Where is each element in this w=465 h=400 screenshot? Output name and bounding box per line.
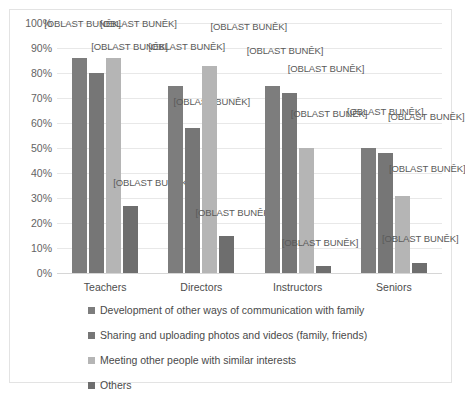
bar[interactable] bbox=[265, 86, 280, 274]
y-axis-tick-label: 50% bbox=[31, 143, 52, 154]
bar[interactable] bbox=[168, 86, 183, 274]
bar[interactable] bbox=[106, 58, 121, 273]
bar-data-label: [OBLAST BUNĚK] bbox=[247, 46, 324, 56]
x-axis-tick-label: Directors bbox=[180, 282, 222, 293]
bar[interactable] bbox=[361, 148, 376, 273]
x-axis-tick-label: Teachers bbox=[84, 282, 127, 293]
y-axis-tick-label: 20% bbox=[31, 218, 52, 229]
y-axis-tick-label: 70% bbox=[31, 93, 52, 104]
legend-item[interactable]: Development of other ways of communicati… bbox=[88, 300, 428, 320]
legend-item[interactable]: Meeting other people with similar intere… bbox=[88, 350, 428, 370]
chart-container: 100%90%80%70%60%50%40%30%20%10%0% [OBLAS… bbox=[9, 9, 452, 383]
legend-item[interactable]: Sharing and uploading photos and videos … bbox=[88, 325, 428, 345]
bar-group: [OBLAST BUNĚK][OBLAST BUNĚK][OBLAST BUNĚ… bbox=[72, 23, 138, 273]
y-axis-tick-label: 80% bbox=[31, 68, 52, 79]
legend-item[interactable]: Others bbox=[88, 375, 428, 395]
bar-data-label: [OBLAST BUNĚK] bbox=[389, 164, 465, 174]
bar[interactable] bbox=[185, 128, 200, 273]
bar[interactable] bbox=[72, 58, 87, 273]
y-axis-tick-label: 30% bbox=[31, 193, 52, 204]
bar-group: [OBLAST BUNĚK][OBLAST BUNĚK][OBLAST BUNĚ… bbox=[265, 23, 331, 273]
y-axis-tick-label: 90% bbox=[31, 43, 52, 54]
chart-legend: Development of other ways of communicati… bbox=[88, 300, 428, 400]
bar-data-label: [OBLAST BUNĚK] bbox=[388, 112, 465, 122]
legend-item-label: Meeting other people with similar intere… bbox=[100, 355, 296, 366]
y-axis-tick-label: 0% bbox=[37, 268, 52, 279]
legend-item-label: Sharing and uploading photos and videos … bbox=[100, 330, 367, 341]
bar-data-label: [OBLAST BUNĚK] bbox=[195, 208, 272, 218]
bar-data-label: [OBLAST BUNĚK] bbox=[382, 234, 459, 244]
legend-swatch-icon bbox=[88, 307, 95, 314]
bar-group: [OBLAST BUNĚK][OBLAST BUNĚK][OBLAST BUNĚ… bbox=[168, 23, 234, 273]
bar-group: [OBLAST BUNĚK][OBLAST BUNĚK][OBLAST BUNĚ… bbox=[361, 23, 427, 273]
x-axis-tick-label: Seniors bbox=[376, 282, 412, 293]
y-axis-tick-label: 60% bbox=[31, 118, 52, 129]
bar[interactable] bbox=[299, 148, 314, 273]
plot-area: 100%90%80%70%60%50%40%30%20%10%0% [OBLAS… bbox=[57, 23, 442, 273]
bar-data-label: [OBLAST BUNĚK] bbox=[282, 238, 359, 248]
bar[interactable] bbox=[316, 266, 331, 274]
bar[interactable] bbox=[89, 73, 104, 273]
bar[interactable] bbox=[202, 66, 217, 274]
legend-item-label: Others bbox=[100, 380, 132, 391]
legend-swatch-icon bbox=[88, 332, 95, 339]
y-axis-tick-label: 10% bbox=[31, 243, 52, 254]
bar[interactable] bbox=[123, 206, 138, 274]
bar-data-label: [OBLAST BUNĚK] bbox=[148, 42, 225, 52]
gridline bbox=[57, 273, 442, 274]
legend-swatch-icon bbox=[88, 357, 95, 364]
bar-data-label: [OBLAST BUNĚK] bbox=[100, 19, 177, 29]
x-axis-tick-label: Instructors bbox=[273, 282, 322, 293]
bar-data-label: [OBLAST BUNĚK] bbox=[288, 64, 365, 74]
legend-item-label: Development of other ways of communicati… bbox=[100, 305, 364, 316]
bar[interactable] bbox=[412, 263, 427, 273]
y-axis-tick-label: 40% bbox=[31, 168, 52, 179]
bar[interactable] bbox=[219, 236, 234, 274]
legend-swatch-icon bbox=[88, 382, 95, 389]
